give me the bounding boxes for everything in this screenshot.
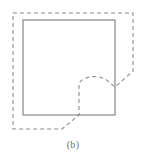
figure-panel: (b) (0, 0, 146, 163)
figure-caption: (b) (0, 139, 146, 151)
